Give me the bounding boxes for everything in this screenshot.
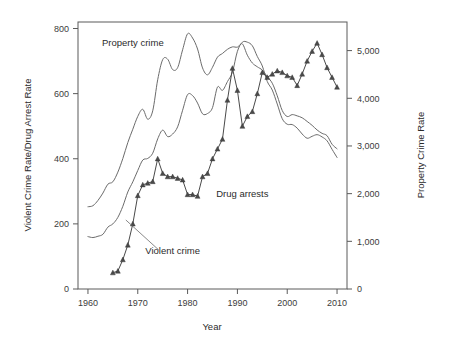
left-axis-title: Violent Crime Rate/Drug Arrest Rate	[22, 79, 33, 232]
x-tick-label: 2000	[277, 298, 297, 308]
annotation-label: Drug arrests	[216, 188, 269, 199]
left-tick-label: 200	[54, 219, 69, 229]
left-tick-label: 600	[54, 89, 69, 99]
annotation-label: Violent crime	[145, 245, 200, 256]
x-tick-label: 1970	[128, 298, 148, 308]
left-tick-label: 400	[54, 154, 69, 164]
left-tick-label: 0	[64, 284, 69, 294]
annotation-label: Property crime	[102, 37, 164, 48]
right-tick-label: 4,000	[357, 94, 380, 104]
x-tick-label: 2010	[327, 298, 347, 308]
left-tick-label: 800	[54, 24, 69, 34]
right-tick-label: 1,000	[357, 237, 380, 247]
right-axis-title: Property Crime Rate	[415, 112, 426, 199]
chart-canvas: 0200400600800 01,0002,0003,0004,0005,000…	[0, 0, 456, 338]
x-axis-title: Year	[202, 321, 221, 332]
right-tick-label: 2,000	[357, 189, 380, 199]
chart-figure: 0200400600800 01,0002,0003,0004,0005,000…	[0, 0, 456, 338]
right-tick-label: 5,000	[357, 46, 380, 56]
x-tick-label: 1960	[78, 298, 98, 308]
right-tick-label: 0	[357, 284, 362, 294]
x-tick-label: 1990	[227, 298, 247, 308]
right-tick-label: 3,000	[357, 141, 380, 151]
x-tick-label: 1980	[178, 298, 198, 308]
